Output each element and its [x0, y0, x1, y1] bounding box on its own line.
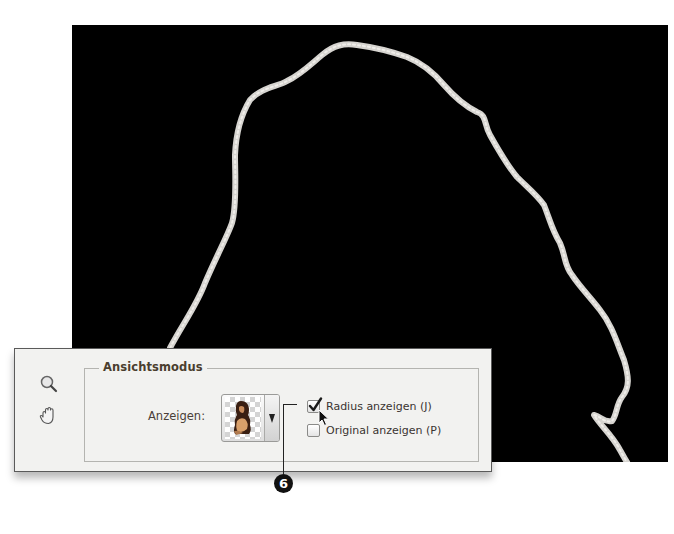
callout-leader-horizontal — [283, 404, 297, 405]
view-mode-select[interactable] — [221, 394, 280, 442]
refine-edge-panel: Ansichtsmodus Anzeigen: Radius — [14, 348, 492, 472]
view-thumbnail — [225, 397, 261, 439]
show-radius-label: Radius anzeigen (J) — [326, 400, 432, 413]
hand-icon — [37, 404, 61, 428]
show-original-label: Original anzeigen (P) — [326, 424, 441, 437]
select-dropdown-button[interactable] — [264, 395, 279, 441]
figure-thumbnail-icon — [225, 397, 261, 439]
chevron-down-icon — [269, 414, 275, 423]
magnifier-icon — [37, 373, 61, 397]
callout-number-badge: 6 — [274, 474, 293, 493]
hand-tool-button[interactable] — [37, 404, 61, 428]
callout-leader-vertical — [283, 404, 284, 474]
show-label: Anzeigen: — [148, 409, 205, 423]
mouse-pointer-icon — [318, 409, 330, 431]
view-mode-group: Ansichtsmodus Anzeigen: Radius — [84, 368, 479, 462]
zoom-tool-button[interactable] — [37, 373, 61, 397]
view-mode-title: Ansichtsmodus — [99, 360, 207, 374]
